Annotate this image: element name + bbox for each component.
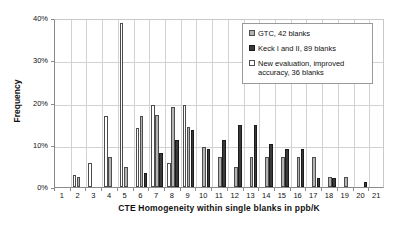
bar: [218, 157, 222, 187]
gridline-vertical: [196, 20, 197, 187]
bar: [317, 178, 321, 187]
x-axis-tick-label: 5: [123, 192, 127, 200]
gridline-vertical: [149, 20, 150, 187]
bar: [124, 167, 128, 187]
x-axis-tick-label: 11: [215, 192, 223, 200]
y-axis-tick-label: 0%: [37, 184, 48, 192]
x-axis-tick-label: 8: [170, 192, 174, 200]
gridline-horizontal: [55, 105, 383, 106]
x-axis-tick-label: 18: [325, 192, 333, 200]
x-axis-tick-mark: [337, 188, 338, 191]
bar: [364, 182, 368, 187]
y-axis-tick-mark: [51, 61, 54, 62]
y-axis-tick-mark: [51, 104, 54, 105]
x-axis-title: CTE Homogeneity within single blanks in …: [54, 203, 384, 213]
keck-swatch: [249, 45, 255, 51]
gridline-vertical: [134, 20, 135, 187]
bar: [222, 140, 226, 187]
x-axis-tick-mark: [321, 188, 322, 191]
y-axis-tick-mark: [51, 146, 54, 147]
bar: [344, 177, 348, 187]
gridline-vertical: [118, 20, 119, 187]
bar-chart: 0%10%20%30%40% Frequency 123456789101112…: [0, 0, 400, 232]
x-axis-tick-label: 6: [138, 192, 142, 200]
x-axis-tick-mark: [148, 188, 149, 191]
bar: [254, 125, 258, 187]
new-evaluation-swatch: [249, 60, 255, 66]
bar: [183, 105, 187, 187]
bar: [202, 147, 206, 187]
x-axis-tick-label: 2: [75, 192, 79, 200]
x-axis-tick-mark: [133, 188, 134, 191]
gridline-vertical: [181, 20, 182, 187]
legend-item-label: New evaluation, improved accuracy, 36 bl…: [258, 59, 367, 77]
bar: [136, 128, 140, 187]
x-axis-tick-mark: [54, 188, 55, 191]
gridline-vertical: [86, 20, 87, 187]
bar: [281, 157, 285, 187]
bar: [285, 149, 289, 187]
x-axis-tick-label: 12: [231, 192, 239, 200]
bar: [108, 157, 112, 187]
bar: [73, 175, 77, 187]
gridline-vertical: [212, 20, 213, 187]
bar: [77, 177, 81, 187]
x-axis-tick-mark: [164, 188, 165, 191]
x-axis-tick-mark: [85, 188, 86, 191]
x-axis-tick-label: 16: [293, 192, 301, 200]
x-axis-tick-label: 21: [372, 192, 380, 200]
x-axis-tick-label: 1: [60, 192, 64, 200]
x-axis-tick-mark: [305, 188, 306, 191]
legend-item: GTC, 42 blanks: [249, 29, 367, 38]
bar: [159, 153, 163, 187]
bar: [250, 157, 254, 187]
x-axis: 123456789101112131415161718192021: [54, 190, 384, 204]
x-axis-tick-mark: [243, 188, 244, 191]
legend: GTC, 42 blanksKeck I and II, 89 blanksNe…: [242, 23, 373, 84]
bar: [312, 157, 316, 187]
bar: [269, 144, 273, 187]
bar: [297, 157, 301, 187]
bar: [144, 173, 148, 187]
y-axis: 0%10%20%30%40%: [0, 0, 52, 232]
bar: [175, 140, 179, 187]
bar: [191, 130, 195, 187]
bar: [167, 163, 171, 187]
x-axis-tick-label: 17: [309, 192, 317, 200]
x-axis-tick-label: 20: [356, 192, 364, 200]
x-axis-tick-mark: [227, 188, 228, 191]
y-axis-tick-mark: [51, 19, 54, 20]
bar: [171, 107, 175, 187]
x-axis-tick-label: 7: [154, 192, 158, 200]
bar: [88, 163, 92, 187]
x-axis-tick-mark: [70, 188, 71, 191]
x-axis-tick-mark: [117, 188, 118, 191]
legend-item: Keck I and II, 89 blanks: [249, 44, 367, 53]
legend-item-label: Keck I and II, 89 blanks: [258, 44, 336, 53]
x-axis-tick-label: 15: [278, 192, 286, 200]
bar: [238, 125, 242, 187]
x-axis-tick-label: 3: [91, 192, 95, 200]
legend-item: New evaluation, improved accuracy, 36 bl…: [249, 59, 367, 77]
x-axis-tick-label: 9: [185, 192, 189, 200]
y-axis-title: Frequency: [12, 56, 22, 146]
x-axis-tick-mark: [290, 188, 291, 191]
x-axis-tick-label: 4: [107, 192, 111, 200]
x-axis-tick-mark: [353, 188, 354, 191]
bar: [187, 127, 191, 187]
x-axis-tick-mark: [258, 188, 259, 191]
x-axis-tick-mark: [180, 188, 181, 191]
bar: [104, 116, 108, 187]
bar: [234, 167, 238, 187]
bar: [120, 23, 124, 187]
y-axis-tick-label: 40%: [33, 15, 48, 23]
bar: [332, 178, 336, 187]
bar: [155, 115, 159, 187]
bar: [151, 105, 155, 187]
bar: [265, 157, 269, 187]
gridline-vertical: [71, 20, 72, 187]
y-axis-tick-label: 30%: [33, 57, 48, 65]
legend-item-label: GTC, 42 blanks: [258, 29, 310, 38]
x-axis-tick-mark: [211, 188, 212, 191]
x-axis-tick-mark: [274, 188, 275, 191]
